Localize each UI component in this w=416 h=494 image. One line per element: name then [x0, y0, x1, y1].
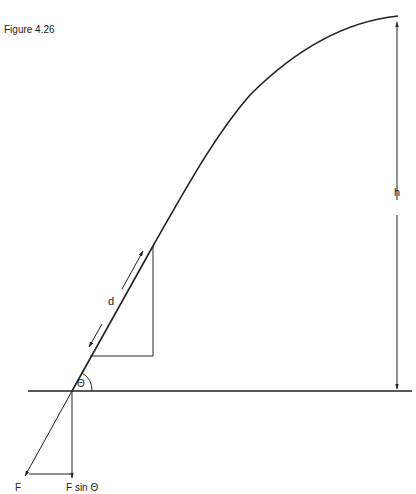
- trajectory-diagram: d Θ h F F sin Θ: [0, 0, 416, 494]
- d-arrow-down: [89, 324, 102, 347]
- theta-label: Θ: [77, 378, 85, 389]
- h-label: h: [394, 186, 400, 198]
- d-label: d: [108, 295, 114, 307]
- force-label: F: [15, 482, 21, 493]
- force-component-label: F sin Θ: [66, 482, 98, 493]
- force-vector: [25, 391, 72, 476]
- trajectory-curve: [72, 16, 398, 391]
